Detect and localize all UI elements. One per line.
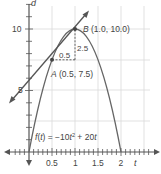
rise-label: 2.5 — [77, 44, 89, 53]
run-label: 0.5 — [59, 51, 71, 60]
point-b — [73, 27, 77, 31]
x-axis-arrow-icon — [154, 149, 160, 155]
y-tick-5: 5 — [18, 85, 23, 95]
x-axis — [4, 149, 160, 155]
point-a — [50, 58, 54, 62]
x-axis-left-arrow-icon — [4, 149, 10, 155]
y-axis-label: d — [31, 0, 37, 8]
chart: d 10 5 0.5 1 1.5 2 t B (1.0, 10.0) A (0.… — [0, 0, 161, 174]
point-b-label: B (1.0, 10.0) — [83, 24, 130, 34]
x-tick-1: 1 — [73, 158, 78, 168]
y-tick-10: 10 — [12, 24, 22, 34]
function-label: f(t) = −10t2 + 20t — [35, 132, 97, 143]
x-axis-label: t — [134, 158, 137, 168]
x-tick-2: 2 — [119, 158, 124, 168]
y-axis-down-arrow-icon — [26, 160, 32, 166]
x-tick-1-5: 1.5 — [92, 158, 104, 168]
point-a-label: A (0.5, 7.5) — [50, 69, 93, 79]
x-tick-0-5: 0.5 — [46, 158, 58, 168]
